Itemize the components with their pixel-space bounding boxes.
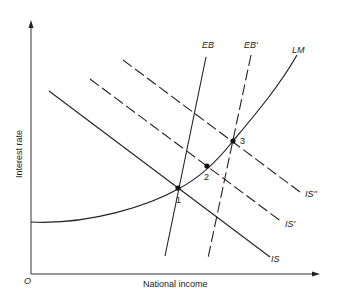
eb-prime-label: EB' bbox=[244, 40, 258, 50]
y-axis-arrow bbox=[29, 20, 34, 28]
eb-curve bbox=[165, 57, 206, 256]
lm-curve bbox=[31, 55, 297, 222]
is-prime-curve bbox=[90, 79, 282, 222]
is-curve bbox=[49, 91, 270, 257]
point-3-label: 3 bbox=[240, 136, 245, 146]
is-prime-label: IS' bbox=[285, 219, 296, 229]
x-axis-label: National income bbox=[143, 279, 208, 289]
is-lm-eb-diagram: O National income Interest rate 1 2 3 IS… bbox=[0, 0, 337, 301]
equilibrium-point-1 bbox=[175, 185, 180, 190]
lm-label: LM bbox=[292, 45, 305, 55]
x-axis-arrow bbox=[312, 272, 320, 277]
is-label: IS bbox=[271, 254, 280, 264]
is-double-prime-curve bbox=[123, 60, 300, 192]
eb-prime-curve bbox=[208, 55, 251, 258]
y-axis-label: Interest rate bbox=[14, 130, 24, 178]
eb-label: EB bbox=[202, 40, 214, 50]
equilibrium-point-2 bbox=[204, 163, 209, 168]
equilibrium-point-3 bbox=[230, 138, 235, 143]
point-1-label: 1 bbox=[176, 195, 181, 205]
origin-label: O bbox=[24, 276, 31, 286]
point-2-label: 2 bbox=[204, 172, 209, 182]
is-double-prime-label: IS'' bbox=[305, 189, 317, 199]
